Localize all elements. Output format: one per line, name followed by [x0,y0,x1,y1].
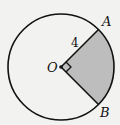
label-o: O [47,60,58,75]
circle-sector-diagram: O A B 4 [0,0,120,125]
radius-length-label: 4 [71,36,79,50]
center-point [59,65,63,69]
label-b: B [99,105,110,120]
label-a: A [101,14,111,29]
